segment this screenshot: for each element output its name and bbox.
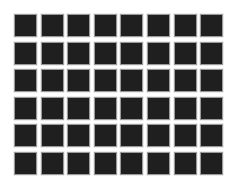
grid-square: [120, 69, 143, 92]
grid-square: [67, 14, 90, 37]
grid-square: [120, 42, 143, 65]
grid-square: [14, 97, 37, 120]
grid-square: [174, 42, 197, 65]
grid-square: [174, 14, 197, 37]
grid-square: [120, 14, 143, 37]
grid-square: [67, 42, 90, 65]
grid-square: [147, 152, 170, 175]
grid-square: [67, 152, 90, 175]
grid-square: [200, 14, 223, 37]
grid-square: [147, 124, 170, 147]
grid-square: [120, 97, 143, 120]
grid-square: [41, 42, 64, 65]
grid-square: [94, 152, 117, 175]
grid-square: [94, 42, 117, 65]
grid-square: [174, 124, 197, 147]
grid-square: [94, 124, 117, 147]
grid-square: [67, 97, 90, 120]
grid-square: [174, 97, 197, 120]
grid-square: [94, 97, 117, 120]
grid-square: [200, 42, 223, 65]
grid-square: [41, 152, 64, 175]
grid-square: [67, 69, 90, 92]
grid-square: [120, 124, 143, 147]
grid-square: [14, 14, 37, 37]
grid-square: [41, 97, 64, 120]
grid-square: [41, 124, 64, 147]
grid-square: [174, 69, 197, 92]
grid-square: [14, 152, 37, 175]
grid-square: [14, 124, 37, 147]
grid-square: [14, 69, 37, 92]
grid-square: [200, 124, 223, 147]
grid-square: [94, 69, 117, 92]
grid-square: [200, 69, 223, 92]
square-grid: [14, 14, 223, 175]
grid-square: [94, 14, 117, 37]
grid-square: [120, 152, 143, 175]
grid-square: [200, 97, 223, 120]
grid-square: [147, 97, 170, 120]
grid-square: [14, 42, 37, 65]
grid-square: [147, 69, 170, 92]
grid-square: [147, 42, 170, 65]
grid-square: [41, 69, 64, 92]
grid-square: [147, 14, 170, 37]
grid-square: [67, 124, 90, 147]
grid-square: [174, 152, 197, 175]
grid-square: [41, 14, 64, 37]
grid-square: [200, 152, 223, 175]
